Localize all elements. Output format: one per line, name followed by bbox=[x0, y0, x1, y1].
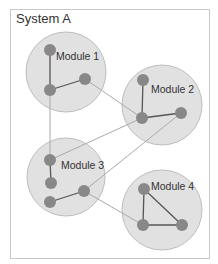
node-n1a bbox=[44, 44, 56, 56]
module-2-label: Module 2 bbox=[151, 83, 194, 95]
node-n4a bbox=[138, 183, 150, 195]
node-n1b bbox=[44, 84, 56, 96]
module-2-boundary bbox=[122, 65, 202, 145]
module-3-label: Module 3 bbox=[61, 159, 104, 171]
node-n2b bbox=[136, 112, 148, 124]
node-n3c bbox=[44, 196, 56, 208]
node-n1c bbox=[79, 73, 91, 85]
diagram-canvas: Module 1Module 2Module 3Module 4 bbox=[0, 0, 218, 264]
node-n3b bbox=[45, 177, 57, 189]
node-n2c bbox=[175, 107, 187, 119]
module-1-label: Module 1 bbox=[56, 50, 99, 62]
system-title: System A bbox=[16, 11, 71, 26]
node-n3a bbox=[44, 154, 56, 166]
node-n3d bbox=[78, 185, 90, 197]
node-n4b bbox=[137, 219, 149, 231]
node-n4c bbox=[176, 219, 188, 231]
node-n2a bbox=[137, 74, 149, 86]
module-3-boundary bbox=[27, 138, 105, 216]
system-diagram: Module 1Module 2Module 3Module 4 System … bbox=[0, 0, 218, 264]
module-4-label: Module 4 bbox=[151, 180, 194, 192]
module-1-boundary bbox=[26, 32, 106, 112]
